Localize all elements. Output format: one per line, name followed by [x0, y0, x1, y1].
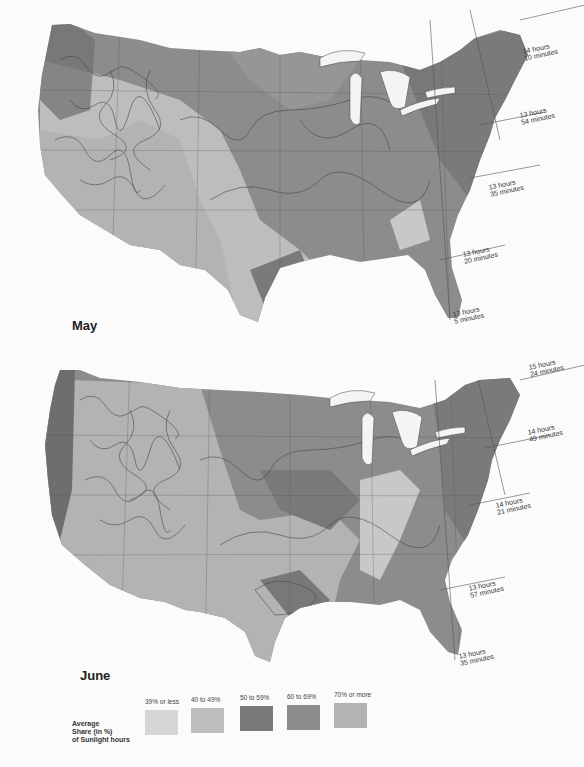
june-map: June 15 hours24 minutes 14 hours49 minut…: [0, 340, 584, 680]
may-title: May: [72, 318, 97, 333]
may-map: May 14 hours10 minutes 13 hours54 minute…: [0, 0, 584, 340]
june-title: June: [80, 668, 110, 683]
legend-swatch: [334, 703, 367, 728]
legend-swatch: [287, 705, 320, 730]
legend-swatch: [240, 706, 273, 731]
legend-title: Average Share (in %) of Sunlight hours: [72, 720, 130, 744]
legend-item-40-49: 40 to 49%: [191, 696, 231, 733]
legend-swatch: [191, 708, 224, 733]
legend-item-50-59: 50 to 59%: [240, 694, 280, 731]
legend-item-39-or-less: 39% or less: [145, 698, 185, 735]
legend-swatch: [145, 710, 178, 735]
legend: Average Share (in %) of Sunlight hours 3…: [0, 690, 584, 750]
legend-item-60-69: 60 to 69%: [287, 693, 327, 730]
may-map-graphic: [0, 0, 584, 340]
legend-item-70-or-more: 70% or more: [334, 691, 374, 728]
